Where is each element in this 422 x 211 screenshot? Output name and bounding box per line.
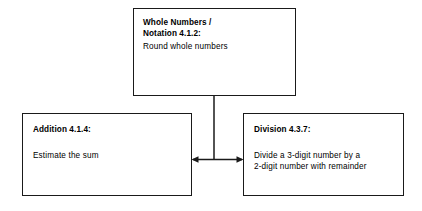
node-division-title: Division 4.3.7: xyxy=(254,125,311,136)
arrowhead-left-icon xyxy=(192,156,199,162)
node-addition[interactable]: Addition 4.1.4: Estimate the sum xyxy=(22,113,192,196)
node-addition-title: Addition 4.1.4: xyxy=(33,125,91,136)
node-addition-body: Estimate the sum xyxy=(33,150,99,161)
node-whole-numbers[interactable]: Whole Numbers / Notation 4.1.2: Round wh… xyxy=(133,8,296,96)
node-whole-numbers-body: Round whole numbers xyxy=(143,41,228,52)
node-whole-numbers-title: Whole Numbers / Notation 4.1.2: xyxy=(143,18,211,39)
diagram-canvas: Whole Numbers / Notation 4.1.2: Round wh… xyxy=(0,0,422,211)
node-division[interactable]: Division 4.3.7: Divide a 3-digit number … xyxy=(243,113,404,196)
node-division-body: Divide a 3-digit number by a 2-digit num… xyxy=(254,150,367,172)
